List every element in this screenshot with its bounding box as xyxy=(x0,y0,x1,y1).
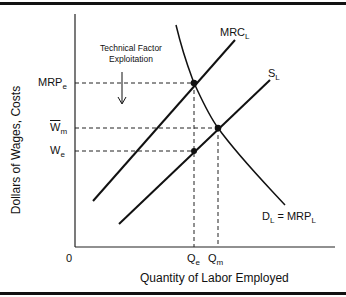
y-axis-label: Dollars of Wages, Costs xyxy=(6,60,26,240)
point-we xyxy=(191,148,197,154)
demand-label: DL = MRPL xyxy=(262,211,316,225)
x-axis-label: Quantity of Labor Employed xyxy=(140,271,289,285)
supply-label: SL xyxy=(268,68,280,82)
qm-label: Qm xyxy=(208,253,223,267)
demand-curve xyxy=(176,25,285,205)
wm-label: Wm xyxy=(50,122,67,136)
origin-label: 0 xyxy=(66,253,72,264)
point-s-d xyxy=(215,125,222,132)
point-mrc-mrp xyxy=(191,80,198,87)
mrc-label: MRCL xyxy=(220,27,250,41)
qe-label: Qe xyxy=(187,253,200,267)
mrpe-label: MRPe xyxy=(38,77,67,91)
technical-factor-annotation: Technical Factor Exploitation xyxy=(86,43,176,64)
we-label: We xyxy=(50,145,65,159)
